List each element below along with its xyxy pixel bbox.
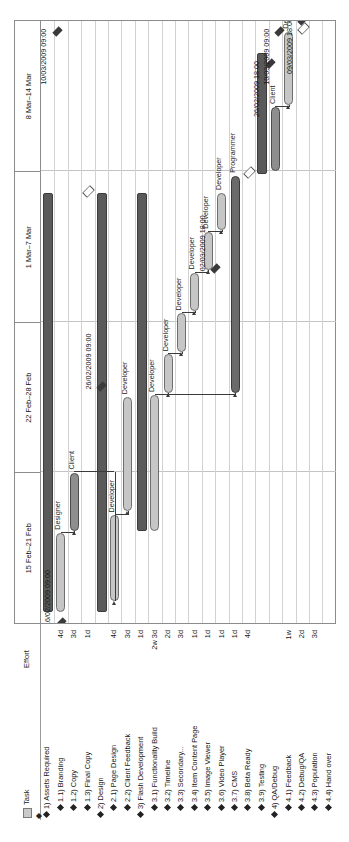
week-header: 8 Mar–14 Mar (15, 21, 41, 172)
task-bar[interactable] (150, 395, 159, 530)
milestone-label: 09/03/2009 18:00 (285, 21, 294, 74)
gridline-horizontal (135, 21, 136, 623)
task-bar[interactable] (271, 107, 280, 172)
summary-bar[interactable] (97, 193, 107, 612)
gridline-horizontal (81, 21, 82, 623)
table-row[interactable]: 3.6) Video Player1d (214, 624, 229, 820)
gantt-chart-stage: ◆ Task Effort 1) Assets Required1.1) Bra… (0, 0, 349, 842)
gridline-horizontal (322, 21, 323, 623)
row-bullet-icon (164, 804, 171, 811)
dependency-link (74, 472, 114, 473)
dependency-link (115, 473, 116, 602)
resource-label: Developer (187, 237, 196, 270)
gridline-horizontal (309, 21, 310, 623)
task-bar[interactable] (70, 473, 79, 531)
task-name: 2) Design (96, 777, 105, 809)
gridline-horizontal (54, 21, 55, 623)
table-row[interactable]: 4.4) Hand over (321, 624, 336, 820)
milestone-marker[interactable] (56, 618, 66, 623)
table-row[interactable]: 3) Flash Development1d (134, 624, 149, 820)
task-effort: 1d (190, 630, 199, 670)
task-effort: 3d (310, 630, 319, 670)
table-row[interactable]: 3.9) Testing (254, 624, 269, 820)
summary-bar[interactable] (137, 193, 147, 531)
task-effort: 1d (83, 630, 92, 670)
milestone-marker[interactable] (243, 166, 256, 179)
task-name: 4.1) Feedback (284, 755, 293, 802)
task-bar[interactable] (56, 533, 65, 613)
row-bullet-icon (218, 804, 225, 811)
table-row[interactable]: 3.5) Image Viewer1d (201, 624, 216, 820)
table-row[interactable]: 4.1) Feedback1w (281, 624, 296, 820)
row-bullet-icon (311, 804, 318, 811)
row-bullet-icon (285, 804, 292, 811)
table-row[interactable]: 3.7) CMS1d (228, 624, 243, 820)
table-row[interactable]: 3.3) Secondary...3d (174, 624, 189, 820)
task-name: 1.2) Copy (69, 770, 78, 802)
table-row[interactable]: 1.3) Final Copy1d (80, 624, 95, 820)
dependency-arrow-icon (72, 531, 76, 535)
table-row[interactable]: 1.1) Branding4d (53, 624, 68, 820)
task-name: 4.4) Hand over (324, 753, 333, 802)
task-bar[interactable] (123, 397, 132, 511)
table-row[interactable]: 3.4) Item Content Page1d (187, 624, 202, 820)
milestone-label: 16/02/2009 09:00 (43, 570, 52, 623)
task-effort: 3d (176, 630, 185, 670)
task-effort: 3d (69, 630, 78, 670)
task-effort: 4d (56, 630, 65, 670)
task-bar[interactable] (164, 354, 173, 393)
table-row[interactable]: 4) QA/Debug (268, 624, 283, 820)
task-effort: 1w (284, 630, 293, 670)
task-name: 3.2) Timeline (163, 760, 172, 802)
task-rows: 1) Assets Required1.1) Branding4d1.2) Co… (40, 624, 336, 820)
table-row[interactable]: 1.2) Copy3d (67, 624, 82, 820)
gridline-horizontal (296, 21, 297, 623)
task-table-header: ◆ Task Effort (14, 624, 41, 820)
resource-label: Developer (174, 278, 183, 311)
table-row[interactable]: 4.3) Population3d (308, 624, 323, 820)
task-bar[interactable] (177, 313, 186, 352)
task-effort: 1d (217, 630, 226, 670)
table-row[interactable]: 3.2) Timeline2d (161, 624, 176, 820)
table-row[interactable]: 2) Design (94, 624, 109, 820)
task-effort: 1d (136, 630, 145, 670)
resource-label: Developer (147, 359, 156, 392)
milestone-label: 10/03/2009 09:00 (262, 29, 271, 85)
resource-label: Programmer (228, 133, 237, 173)
task-name: 4) QA/Debug (270, 766, 279, 809)
week-header: 15 Feb–21 Feb (15, 473, 41, 624)
table-row[interactable]: 3.1) Functionality Build2w 3d (147, 624, 162, 820)
task-bar[interactable] (231, 176, 240, 393)
task-name: 1.1) Branding (56, 758, 65, 802)
task-name: 3.4) Item Content Page (190, 726, 199, 802)
gridline-horizontal (108, 21, 109, 623)
milestone-marker[interactable] (83, 186, 96, 199)
row-bullet-icon (244, 804, 251, 811)
resource-label: Designer (53, 501, 62, 530)
resource-label: Client (268, 86, 277, 104)
summary-bar[interactable] (43, 193, 53, 612)
task-name: 1.3) Final Copy (83, 752, 92, 802)
task-effort: 2w 3d (150, 630, 159, 670)
dependency-arrow-icon (112, 602, 116, 606)
dependency-arrow-icon (286, 105, 290, 109)
task-bar[interactable] (217, 193, 226, 230)
task-bar[interactable] (190, 273, 199, 312)
gridline-horizontal (215, 21, 216, 623)
task-name: 3.8) Beta Ready (243, 749, 252, 802)
task-name: 1) Assets Required (42, 747, 51, 809)
row-bullet-icon (177, 804, 184, 811)
task-effort: 2d (163, 630, 172, 670)
row-bullet-icon (298, 804, 305, 811)
gridline-horizontal (202, 21, 203, 623)
gridline-horizontal (282, 21, 283, 623)
table-row[interactable]: 1) Assets Required (40, 624, 55, 820)
task-name: 4.3) Population (310, 752, 319, 802)
table-row[interactable]: 2.1) Page Design4d (107, 624, 122, 820)
table-row[interactable]: 3.8) Beta Ready4d (241, 624, 256, 820)
table-row[interactable]: 2.2) Client Feedback3d (120, 624, 135, 820)
week-header: 22 Feb–28 Feb (15, 322, 41, 473)
table-row[interactable]: 4.2) Debug/QA2d (295, 624, 310, 820)
milestone-label: 10/03/2009 09:00 (41, 29, 48, 85)
resource-label: Developer (120, 361, 129, 394)
